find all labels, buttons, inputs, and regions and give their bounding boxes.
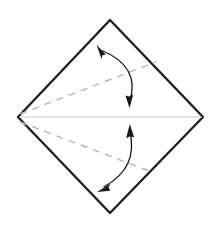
origami-figure-canvas: Origami fold step diagram Square sheet r… (0, 0, 221, 229)
origami-diagram: Origami fold step diagram Square sheet r… (0, 0, 221, 229)
